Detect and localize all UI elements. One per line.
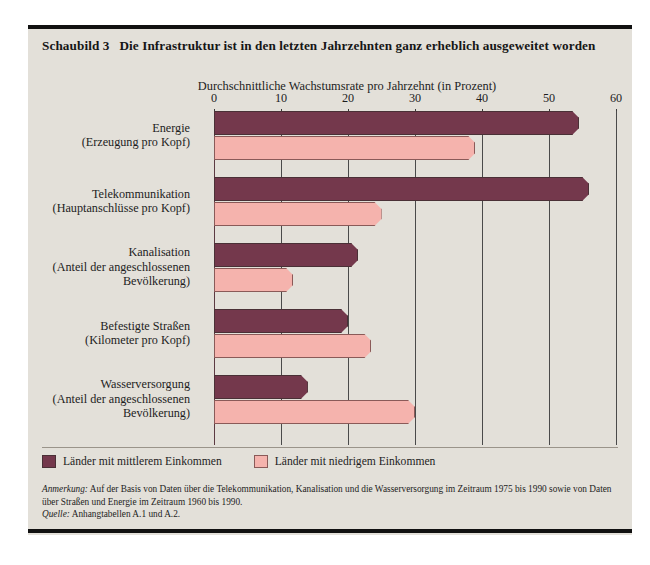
bar [214,243,358,267]
bar [214,177,589,201]
bar-group [214,243,616,295]
legend-item: Länder mit mittlerem Einkommen [42,455,222,468]
category-label-line: Telekommunikation [0,187,190,201]
category-label: Energie(Erzeugung pro Kopf) [0,121,190,150]
category-label: Kanalisation(Anteil der angeschlossenenB… [0,245,190,288]
chart-figure: Schaubild 3Die Infrastruktur ist in den … [28,25,632,535]
legend-swatch [254,455,268,468]
figure-title: Schaubild 3Die Infrastruktur ist in den … [42,38,596,54]
legend-label: Länder mit niedrigem Einkommen [275,455,436,468]
category-label-line: (Anteil der angeschlossenen [0,392,190,406]
bar-group [214,177,616,229]
bar-group [214,375,616,427]
category-label: Telekommunikation(Hauptanschlüsse pro Ko… [0,187,190,216]
plot-area: Energie(Erzeugung pro Kopf)Telekommunika… [214,111,616,445]
legend-label: Länder mit mittlerem Einkommen [63,455,222,468]
gridline [616,111,617,445]
bar [214,309,348,333]
bar [214,111,579,135]
figure-number: Schaubild 3 [42,38,109,53]
figure-notes: Anmerkung: Auf der Basis von Daten über … [42,483,620,521]
category-label: Wasserversorgung(Anteil der angeschlosse… [0,377,190,420]
x-axis-tick-labels: 0102030405060 [214,91,616,107]
category-label-line: (Hauptanschlüsse pro Kopf) [0,201,190,215]
x-tick-label: 60 [610,91,622,106]
x-tick-label: 50 [543,91,555,106]
bar-group [214,309,616,361]
legend-swatch [42,455,56,468]
top-rule [28,25,632,29]
note-text: Auf der Basis von Daten über die Telekom… [42,484,612,507]
source-lead: Quelle: [42,509,70,519]
category-label-line: Bevölkerung) [0,406,190,420]
category-label-line: Wasserversorgung [0,377,190,391]
bar [214,268,293,292]
note-lead: Anmerkung: [42,484,88,494]
figure-title-text: Die Infrastruktur ist in den letzten Jah… [119,38,595,53]
bar [214,400,415,424]
bar-group [214,111,616,163]
category-label-line: Kanalisation [0,245,190,259]
source-text: Anhangtabellen A.1 und A.2. [70,509,180,519]
x-tick-label: 40 [476,91,488,106]
bar [214,202,382,226]
bar [214,136,475,160]
category-label-line: (Kilometer pro Kopf) [0,333,190,347]
x-tick-label: 20 [342,91,354,106]
category-label-line: Bevölkerung) [0,274,190,288]
x-tick-label: 10 [275,91,287,106]
category-label: Befestigte Straßen(Kilometer pro Kopf) [0,319,190,348]
legend-separator [42,447,618,448]
bar [214,334,371,358]
source-line: Quelle: Anhangtabellen A.1 und A.2. [42,508,620,521]
x-tick-label: 0 [211,91,217,106]
bar [214,375,308,399]
category-label-line: Energie [0,121,190,135]
category-label-line: Befestigte Straßen [0,319,190,333]
category-label-line: (Erzeugung pro Kopf) [0,135,190,149]
chart-legend: Länder mit mittlerem EinkommenLänder mit… [42,455,435,468]
x-tick-label: 30 [409,91,421,106]
legend-item: Länder mit niedrigem Einkommen [254,455,436,468]
note-line: Anmerkung: Auf der Basis von Daten über … [42,483,620,508]
bottom-rule [28,529,632,533]
category-label-line: (Anteil der angeschlossenen [0,260,190,274]
